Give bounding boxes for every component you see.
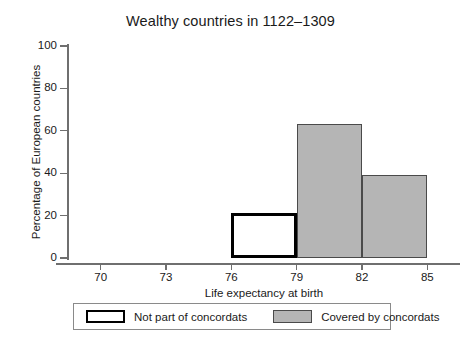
x-tick-label: 79 xyxy=(277,272,317,284)
y-tick-mark xyxy=(60,173,67,174)
legend-entry-covered-by-concordats: Covered by concordats xyxy=(273,304,439,329)
legend-swatch-outlined xyxy=(86,310,125,323)
y-tick-mark xyxy=(60,45,67,46)
histogram-bar xyxy=(297,124,362,258)
chart-title: Wealthy countries in 1122–1309 xyxy=(0,13,461,29)
plot-area xyxy=(68,46,460,258)
x-tick-mark xyxy=(165,264,166,270)
x-tick-mark xyxy=(361,264,362,270)
x-axis-line xyxy=(56,263,460,265)
histogram-figure: Wealthy countries in 1122–1309 020406080… xyxy=(0,0,461,341)
legend-label-1: Covered by concordats xyxy=(321,311,439,323)
y-tick-mark xyxy=(60,130,67,131)
x-tick-label: 70 xyxy=(81,272,121,284)
histogram-bar xyxy=(231,213,296,258)
legend-entry-not-part-of-concordats: Not part of concordats xyxy=(86,304,247,329)
x-tick-mark xyxy=(427,264,428,270)
y-axis-title: Percentage of European countries xyxy=(30,37,42,267)
legend-swatch-filled xyxy=(273,310,312,323)
x-axis-title: Life expectancy at birth xyxy=(68,287,460,299)
x-tick-mark xyxy=(296,264,297,270)
x-tick-mark xyxy=(100,264,101,270)
x-tick-label: 73 xyxy=(146,272,186,284)
x-tick-label: 85 xyxy=(407,272,447,284)
y-tick-mark xyxy=(60,215,67,216)
x-tick-label: 76 xyxy=(211,272,251,284)
y-tick-mark xyxy=(60,88,67,89)
x-tick-mark xyxy=(231,264,232,270)
x-tick-label: 82 xyxy=(342,272,382,284)
y-tick-mark xyxy=(60,257,67,258)
legend-label-0: Not part of concordats xyxy=(134,311,247,323)
chart-legend: Not part of concordats Covered by concor… xyxy=(73,303,391,330)
histogram-bar xyxy=(362,175,427,258)
